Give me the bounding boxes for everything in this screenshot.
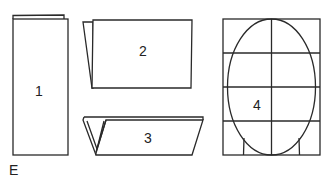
panel-1-folded-sheet: 1 [13,15,68,155]
diagram-canvas: 1 2 3 4 E [0,0,327,180]
figure-label: E [9,162,18,178]
panel-3-label: 3 [144,130,152,146]
panel-4-label: 4 [253,97,261,113]
panel-2-folded-sheet: 2 [83,20,192,88]
panel-2-label: 2 [139,43,147,59]
panel-4-head-grid: 4 [223,19,320,155]
panel-4-neck-right [299,138,300,155]
panel-1-label: 1 [35,83,43,99]
panel-4-neck-left [244,138,245,155]
panel-3-pleated-sheet: 3 [83,117,203,155]
panel-3-outer-left-edge [83,117,96,155]
